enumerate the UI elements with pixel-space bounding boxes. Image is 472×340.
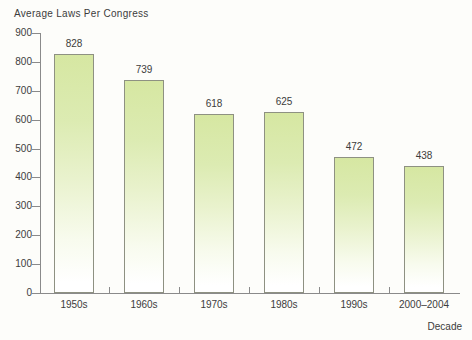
y-tick-label: 100 [6,258,32,270]
bar-value-label: 472 [324,141,384,153]
y-tick-mark [32,206,40,207]
y-axis-line [40,33,41,293]
y-tick-mark [32,62,40,63]
x-minor-tick [319,287,320,293]
y-tick-label: 400 [6,171,32,183]
bar-chart: Average Laws Per Congress Decade 0100200… [0,0,472,340]
y-tick-label: 300 [6,200,32,212]
bar [264,112,304,293]
x-minor-tick [109,287,110,293]
y-tick-mark [32,33,40,34]
bar-value-label: 618 [184,98,244,110]
y-tick-label: 700 [6,85,32,97]
bar [54,54,94,293]
bar-value-label: 739 [114,64,174,76]
bar [194,114,234,293]
y-tick-mark [32,235,40,236]
y-tick-mark [32,264,40,265]
y-tick-mark [32,149,40,150]
bar [334,157,374,293]
x-tick-label: 2000–2004 [382,299,466,311]
y-tick-label: 500 [6,143,32,155]
bar-value-label: 438 [394,150,454,162]
x-axis-line [40,293,460,294]
y-tick-label: 0 [6,287,32,299]
bar [124,80,164,293]
y-tick-label: 900 [6,27,32,39]
x-minor-tick [389,287,390,293]
y-tick-label: 200 [6,229,32,241]
bar [404,166,444,293]
x-axis-label: Decade [402,321,462,333]
x-minor-tick [179,287,180,293]
y-tick-mark [32,120,40,121]
y-tick-mark [32,91,40,92]
y-tick-mark [32,293,40,294]
y-tick-label: 800 [6,56,32,68]
bar-value-label: 625 [254,96,314,108]
y-tick-mark [32,177,40,178]
x-minor-tick [249,287,250,293]
chart-title: Average Laws Per Congress [14,8,149,19]
y-tick-label: 600 [6,114,32,126]
bar-value-label: 828 [44,38,104,50]
